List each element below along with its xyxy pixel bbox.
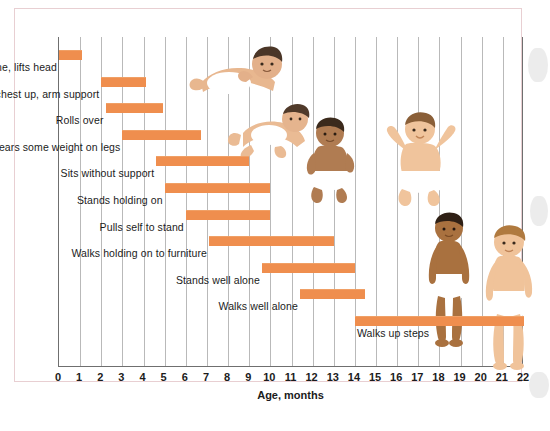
x-tick-label-12: 12: [306, 371, 318, 383]
milestone-label: Sits without support: [61, 167, 155, 179]
x-axis-ticks: 012345678910111213141516171819202122: [58, 371, 523, 387]
gridline-month-7: [207, 37, 208, 366]
x-tick-label-3: 3: [118, 371, 124, 383]
gridline-month-10: [270, 37, 271, 366]
milestone-bar: [262, 263, 355, 273]
milestone-bar: [165, 183, 271, 193]
gridline-month-8: [228, 37, 229, 366]
x-tick-label-18: 18: [432, 371, 444, 383]
x-tick-label-6: 6: [182, 371, 188, 383]
milestone-label: Walks holding on to furniture: [71, 247, 207, 259]
x-tick-label-22: 22: [517, 371, 529, 383]
gridline-month-12: [313, 37, 314, 366]
toddler-walking-icon: [479, 225, 537, 375]
scan-artifact: [528, 48, 548, 82]
milestone-label: Pulls self to stand: [100, 221, 184, 233]
x-tick-label-7: 7: [203, 371, 209, 383]
toddler-standing-alone-icon: [421, 212, 477, 352]
milestone-bar: [300, 289, 366, 299]
milestone-label: Prone, lifts head: [0, 61, 57, 73]
milestone-label: Stands holding on: [77, 194, 163, 206]
milestone-bar: [101, 77, 145, 87]
x-tick-label-8: 8: [224, 371, 230, 383]
milestone-bar: [186, 210, 271, 220]
x-tick-label-16: 16: [390, 371, 402, 383]
x-tick-label-14: 14: [348, 371, 360, 383]
x-tick-label-10: 10: [263, 371, 275, 383]
x-tick-label-13: 13: [327, 371, 339, 383]
gridline-month-5: [165, 37, 166, 366]
scan-artifact: [529, 372, 549, 398]
baby-prone-lifting-head-icon: [183, 37, 293, 103]
scan-artifact: [530, 196, 548, 226]
developmental-milestones-figure: Prone, lifts headProne, chest up, arm su…: [14, 8, 522, 382]
x-tick-label-9: 9: [245, 371, 251, 383]
milestone-bar: [156, 156, 249, 166]
gridline-month-9: [249, 37, 250, 366]
gridline-month-11: [292, 37, 293, 366]
milestone-bar: [106, 103, 163, 113]
x-tick-label-11: 11: [285, 371, 297, 383]
gridline-month-6: [186, 37, 187, 366]
x-tick-label-19: 19: [453, 371, 465, 383]
x-tick-label-21: 21: [496, 371, 508, 383]
chart-plot-area: Prone, lifts headProne, chest up, arm su…: [58, 37, 523, 367]
baby-sitting-unsupported-icon: [302, 115, 360, 205]
x-tick-label-2: 2: [97, 371, 103, 383]
x-tick-label-5: 5: [161, 371, 167, 383]
x-tick-label-20: 20: [475, 371, 487, 383]
milestone-bar: [122, 130, 200, 140]
x-axis-title: Age, months: [58, 389, 523, 401]
x-tick-label-0: 0: [55, 371, 61, 383]
milestone-bar: [59, 50, 82, 60]
gridline-month-13: [334, 37, 335, 366]
x-tick-label-1: 1: [76, 371, 82, 383]
milestone-label: Rolls over: [56, 114, 104, 126]
x-tick-label-15: 15: [369, 371, 381, 383]
x-tick-label-17: 17: [411, 371, 423, 383]
milestone-label: Bears some weight on legs: [0, 141, 120, 153]
milestone-label: Walks up steps: [357, 327, 429, 339]
milestone-label: Walks well alone: [219, 300, 298, 312]
milestone-bar: [355, 316, 524, 326]
milestone-bar: [209, 236, 334, 246]
milestone-label: Prone, chest up, arm support: [0, 88, 99, 100]
milestone-label: Stands well alone: [176, 274, 260, 286]
x-tick-label-4: 4: [139, 371, 145, 383]
